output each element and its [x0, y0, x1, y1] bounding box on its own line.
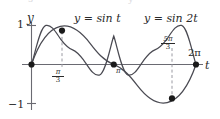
x-tick-label-2pi: 2π [188, 48, 201, 58]
x-tick-label-pi: π [116, 68, 121, 75]
intersection-dot-origin [28, 61, 34, 67]
x-tick-pi-over-3-denominator: 3 [52, 77, 64, 84]
curve-label-sin-t: y = sin t [74, 13, 121, 24]
y-tick-label-one: 1 [17, 19, 24, 30]
intersection-dot-5pi-over-3 [169, 95, 175, 101]
x-tick-5pi-over-3-denominator: 3 [161, 44, 175, 51]
y-axis-label: y [27, 12, 34, 24]
intersection-dot-pi-over-3 [59, 28, 65, 34]
sine-curves-figure: s y y t 1 −1 y = sin t y = sin 2t π [0, 0, 220, 119]
x-tick-label-pi-over-3: π 3 [52, 69, 64, 85]
t-axis-label: t [205, 60, 209, 71]
x-tick-label-5pi-over-3: 5π 3 [161, 36, 175, 52]
curve-label-sin-2t: y = sin 2t [144, 13, 198, 24]
intersection-dot-2pi [193, 61, 199, 67]
y-tick-label-negative-one: −1 [8, 99, 24, 110]
